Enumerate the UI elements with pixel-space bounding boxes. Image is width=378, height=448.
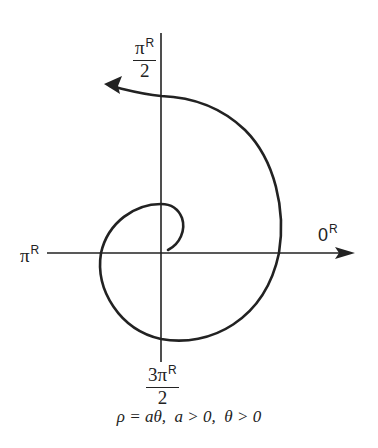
label-zero: 0R — [318, 226, 338, 244]
spiral-arrowhead-icon — [104, 76, 122, 94]
equation-caption: ρ = aθ, a > 0, θ > 0 — [0, 407, 378, 427]
label-pi-over-2: πR 2 — [133, 38, 156, 81]
equation-text: ρ = aθ, — [117, 407, 166, 426]
spiral-diagram: πR 2 0R πR 3πR 2 ρ = aθ, a > 0, θ > 0 — [0, 0, 378, 448]
label-pi: πR — [20, 246, 39, 265]
label-3pi-over-2: 3πR 2 — [146, 365, 179, 408]
spiral-plot — [0, 0, 378, 448]
condition-a-text: a > 0, — [175, 407, 216, 426]
spiral-curve — [100, 86, 281, 341]
condition-theta-text: θ > 0 — [224, 407, 261, 426]
